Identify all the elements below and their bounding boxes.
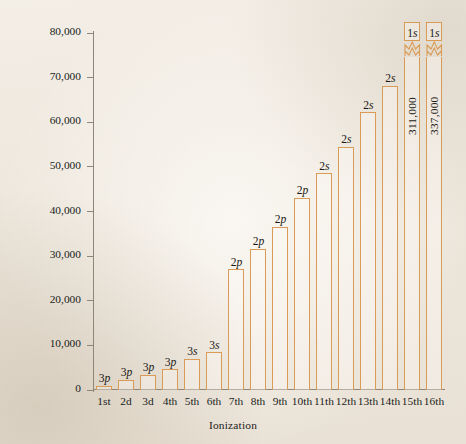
y-tick-label: 70,000 bbox=[50, 70, 81, 82]
bar-orbital-label: 2s bbox=[363, 99, 373, 112]
bar-orbital-label: 3s bbox=[209, 339, 219, 352]
y-tick-mark bbox=[87, 122, 94, 123]
bar[interactable]: 2s bbox=[316, 173, 332, 390]
bar[interactable]: 2s bbox=[360, 112, 376, 390]
bar[interactable]: 2p bbox=[272, 227, 288, 390]
bar-orbital-label: 2p bbox=[253, 235, 265, 248]
y-tick-mark bbox=[87, 77, 94, 78]
y-tick-label: 10,000 bbox=[50, 337, 81, 349]
y-tick-mark bbox=[87, 390, 94, 391]
y-tick-mark bbox=[87, 300, 94, 301]
bar[interactable]: 3p bbox=[140, 375, 156, 390]
axis-break-marker bbox=[404, 40, 421, 62]
y-tick-label: 50,000 bbox=[50, 159, 81, 171]
y-tick-mark bbox=[87, 256, 94, 257]
bar[interactable]: 2s bbox=[338, 147, 354, 390]
axis-break-marker bbox=[426, 40, 443, 62]
bar[interactable]: 3p bbox=[162, 369, 178, 390]
y-tick-mark bbox=[87, 166, 94, 167]
bar[interactable]: 3s bbox=[206, 352, 222, 390]
y-tick-mark bbox=[87, 211, 94, 212]
bar-orbital-label: 2s bbox=[385, 72, 395, 85]
bar[interactable]: 3s bbox=[184, 359, 200, 390]
bar-orbital-label: 3p bbox=[165, 356, 177, 369]
y-tick-label: 30,000 bbox=[50, 248, 81, 260]
bar[interactable]: 337,0001s bbox=[426, 57, 442, 390]
bar[interactable]: 3p bbox=[96, 386, 112, 390]
bar-orbital-label: 3p bbox=[143, 361, 155, 374]
bar[interactable]: 2p bbox=[228, 269, 244, 390]
plot-area: 010,00020,00030,00040,00050,00060,00070,… bbox=[93, 33, 445, 390]
y-tick-mark bbox=[87, 33, 94, 34]
bar-orbital-label: 1s bbox=[407, 27, 417, 40]
bar-orbital-label: 2p bbox=[297, 184, 309, 197]
bar-orbital-label: 2s bbox=[319, 160, 329, 173]
bar-orbital-label: 1s bbox=[429, 27, 439, 40]
x-tick-label: 16th bbox=[420, 395, 448, 407]
bar-orbital-label: 3p bbox=[121, 366, 133, 379]
bar[interactable]: 2p bbox=[250, 249, 266, 390]
bar-orbital-label: 2p bbox=[275, 213, 287, 226]
bar-value-label: 337,000 bbox=[428, 97, 440, 135]
y-tick-label: 40,000 bbox=[50, 204, 81, 216]
bar[interactable]: 3p bbox=[118, 380, 134, 390]
y-tick-label: 0 bbox=[75, 382, 81, 394]
y-tick-label: 80,000 bbox=[50, 25, 81, 37]
bar[interactable]: 311,0001s bbox=[404, 57, 420, 390]
bar-orbital-label: 3s bbox=[187, 345, 197, 358]
bar[interactable]: 2s bbox=[382, 86, 398, 390]
y-tick-label: 60,000 bbox=[50, 114, 81, 126]
bar[interactable]: 2p bbox=[294, 198, 310, 390]
bar-value-label: 311,000 bbox=[406, 97, 418, 135]
bar-orbital-label: 2s bbox=[341, 133, 351, 146]
y-tick-label: 20,000 bbox=[50, 293, 81, 305]
bar-orbital-label: 3p bbox=[99, 372, 111, 385]
bar-orbital-label: 2p bbox=[231, 256, 243, 269]
x-axis-title: Ionization bbox=[0, 419, 466, 431]
y-tick-mark bbox=[87, 345, 94, 346]
ionization-energy-bar-chart: Ionization energy, kJ mol−1 010,00020,00… bbox=[0, 0, 466, 444]
